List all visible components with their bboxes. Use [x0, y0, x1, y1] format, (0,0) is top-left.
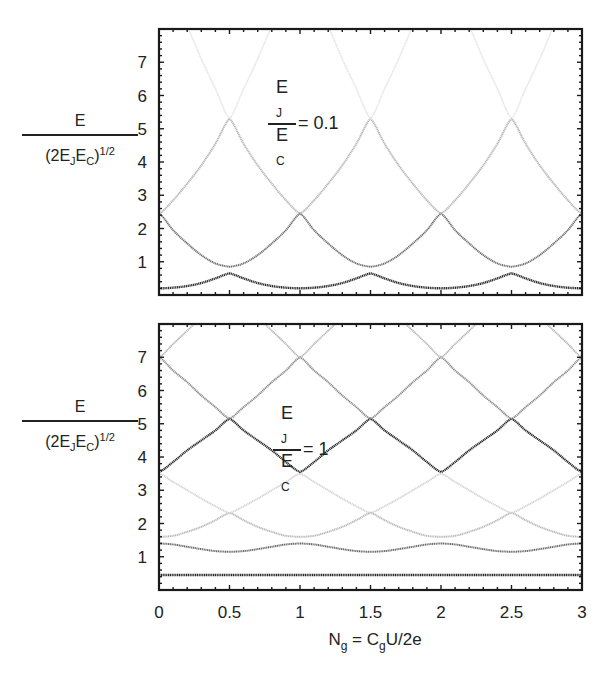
- y-tick-label: 2: [138, 220, 147, 239]
- fraction-bar: [22, 134, 138, 136]
- x-tick-label: 2.5: [500, 603, 524, 622]
- ratio-value: = 1: [303, 439, 329, 460]
- ticks: [159, 324, 582, 590]
- y-label-numerator: E: [10, 110, 150, 132]
- y-tick-label: 2: [138, 515, 147, 534]
- y-tick-label: 7: [138, 348, 147, 367]
- y-tick-label: 1: [138, 253, 147, 272]
- curve-band-2: [159, 214, 582, 267]
- x-tick-label: 0: [154, 603, 163, 622]
- curve-band-4: [159, 474, 582, 513]
- ratio-annotation-top: EJ EC = 0.1: [268, 77, 339, 171]
- y-tick-label: 3: [138, 186, 147, 205]
- ratio-value: = 0.1: [298, 113, 339, 134]
- curve-band-5: [159, 419, 582, 472]
- bottom-panel: 123456700.511.522.53 E (2EJEC)1/2 EJ EC …: [0, 310, 615, 640]
- y-tick-label: 6: [138, 87, 147, 106]
- x-axis-label: Ng = CgU/2e: [285, 630, 465, 653]
- y-axis-label-bottom: E (2EJEC)1/2: [10, 396, 150, 448]
- curve-band-2: [159, 543, 582, 551]
- x-tick-label: 1: [295, 603, 304, 622]
- curve-band-7: [159, 310, 582, 357]
- y-label-denominator: (2EJEC)1/2: [10, 140, 150, 162]
- plot-frame: [159, 324, 582, 590]
- curve-band-3: [159, 513, 582, 537]
- y-tick-label: 4: [138, 448, 147, 467]
- ratio-annotation-bottom: EJ EC = 1: [273, 403, 329, 497]
- curve-band-3: [159, 119, 582, 214]
- curve-band-6: [159, 357, 582, 419]
- curves: [159, 310, 582, 575]
- x-tick-label: 1.5: [359, 603, 383, 622]
- x-tick-label: 3: [577, 603, 586, 622]
- curve-band-1: [159, 273, 582, 288]
- plot-frame: [159, 29, 582, 295]
- curves: [159, 0, 582, 288]
- y-tick-label: 3: [138, 481, 147, 500]
- curve-band-4: [159, 0, 582, 119]
- y-tick-label: 7: [138, 53, 147, 72]
- ticks: [159, 29, 582, 295]
- x-tick-label: 2: [436, 603, 445, 622]
- y-axis-label-top: E (2EJEC)1/2: [10, 110, 150, 162]
- top-panel: 1234567 E (2EJEC)1/2 EJ EC = 0.1: [0, 0, 615, 310]
- x-tick-label: 0.5: [218, 603, 242, 622]
- y-tick-label: 1: [138, 548, 147, 567]
